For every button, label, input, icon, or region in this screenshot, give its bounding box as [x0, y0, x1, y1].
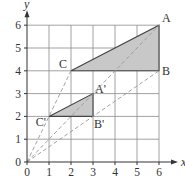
x-axis-arrow-icon	[171, 160, 178, 165]
y-tick-label: 1	[15, 133, 21, 145]
vertex-label-a-prime: A'	[95, 82, 106, 96]
x-tick-label: 1	[46, 166, 52, 178]
x-tick-label: 2	[68, 166, 74, 178]
enlargement-diagram: xy 01234560123456 ABCA'B'C'	[0, 0, 185, 194]
y-tick-label: 3	[15, 88, 21, 100]
y-tick-label: 6	[15, 19, 21, 31]
y-tick-label: 5	[15, 42, 21, 54]
x-tick-label: 6	[156, 166, 162, 178]
vertex-label-b: B	[162, 64, 170, 78]
vertex-label-a: A	[162, 11, 171, 25]
y-tick-label: 0	[15, 156, 21, 168]
x-tick-label: 4	[112, 166, 118, 178]
vertex-label-b-prime: B'	[94, 117, 104, 131]
x-axis-label: x	[180, 155, 185, 169]
vertex-label-c-prime: C'	[36, 115, 46, 129]
x-tick-label: 0	[24, 166, 30, 178]
y-axis-label: y	[23, 0, 30, 11]
y-tick-label: 4	[15, 65, 21, 77]
x-tick-label: 3	[90, 166, 96, 178]
vertex-label-c: C	[59, 57, 67, 71]
x-tick-label: 5	[134, 166, 140, 178]
y-tick-label: 2	[15, 110, 21, 122]
y-axis-arrow-icon	[25, 10, 30, 17]
